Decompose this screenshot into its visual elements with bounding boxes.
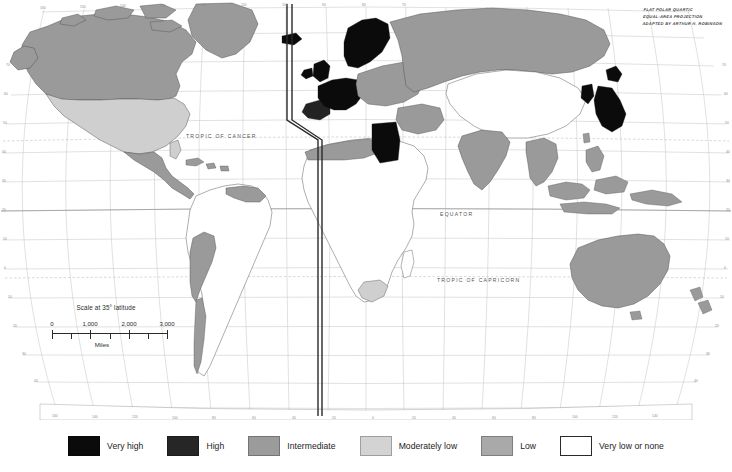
svg-text:80: 80: [362, 3, 366, 7]
legend-item-very-low-or-none: Very low or none: [560, 436, 664, 456]
legend-swatch-very-high: [68, 436, 100, 456]
legend-label-very-high: Very high: [107, 441, 143, 451]
svg-text:30: 30: [22, 352, 26, 356]
svg-text:30: 30: [706, 352, 710, 356]
svg-text:70: 70: [722, 63, 726, 67]
svg-text:60: 60: [724, 92, 728, 96]
svg-text:140: 140: [92, 415, 98, 419]
svg-text:40: 40: [726, 150, 730, 154]
svg-text:90: 90: [322, 3, 326, 7]
credit-line-2: EQUAL-AREA PROJECTION: [643, 14, 723, 21]
legend-label-moderately-low: Moderately low: [399, 441, 458, 451]
legend-item-very-high: Very high: [68, 436, 167, 456]
svg-text:120: 120: [132, 415, 138, 419]
legend-swatch-intermediate: [248, 436, 280, 456]
world-map-svg: 160150 140130 120110 10090 8070 160140 1…: [0, 0, 732, 420]
scale-tick-label-3: 3,000: [159, 320, 174, 327]
label-equator: EQUATOR: [440, 211, 473, 217]
legend-label-intermediate: Intermediate: [287, 441, 335, 451]
svg-text:20: 20: [13, 324, 17, 328]
svg-text:160: 160: [52, 414, 58, 418]
svg-text:140: 140: [652, 414, 658, 418]
svg-text:10: 10: [3, 237, 7, 241]
scale-bar-numbers: 0 1,000 2,000 3,000: [36, 320, 176, 329]
svg-text:30: 30: [2, 179, 6, 183]
scale-tick-label-2: 2,000: [121, 320, 136, 327]
world-map-page: 160150 140130 120110 10090 8070 160140 1…: [0, 0, 732, 472]
projection-credit-block: FLAT POLAR QUARTIC EQUAL-AREA PROJECTION…: [643, 7, 724, 27]
credit-line-1: FLAT POLAR QUARTIC: [644, 7, 724, 14]
legend-label-very-low-or-none: Very low or none: [599, 441, 664, 451]
scale-tick-minor-0: [71, 333, 72, 339]
scale-bar-rule: [36, 330, 176, 339]
svg-text:10: 10: [8, 295, 12, 299]
svg-text:10: 10: [720, 295, 724, 299]
svg-text:140: 140: [120, 4, 126, 8]
scale-tick-label-0: 0: [50, 320, 53, 327]
svg-text:60: 60: [4, 92, 8, 96]
scale-tick-minor-1: [110, 333, 111, 339]
svg-text:30: 30: [726, 179, 730, 183]
legend-item-moderately-low: Moderately low: [360, 436, 482, 456]
credit-line-3: ADAPTED BY ARTHUR H. ROBINSON: [643, 21, 723, 28]
label-tropic-of-cancer: TROPIC OF CANCER: [186, 133, 257, 139]
legend-item-high: High: [167, 436, 248, 456]
map-legend: Very high High Intermediate Moderately l…: [0, 420, 732, 472]
legend-item-low: Low: [481, 436, 560, 456]
scale-tick-label-1: 1,000: [82, 320, 97, 327]
legend-label-high: High: [206, 441, 224, 451]
map-canvas: 160150 140130 120110 10090 8070 160140 1…: [0, 0, 732, 422]
scale-bar-units: Miles: [36, 341, 176, 348]
legend-swatch-moderately-low: [360, 436, 392, 456]
scale-tick-major-3: [167, 330, 168, 339]
svg-text:50: 50: [725, 121, 729, 125]
svg-text:20: 20: [715, 324, 719, 328]
legend-item-intermediate: Intermediate: [248, 436, 359, 456]
region-egypt: [372, 122, 400, 163]
svg-text:120: 120: [612, 415, 618, 419]
svg-text:40: 40: [694, 379, 698, 383]
legend-swatch-low: [481, 436, 513, 456]
svg-text:120: 120: [201, 3, 207, 7]
landmass-taiwan: [583, 133, 590, 143]
svg-text:160: 160: [40, 6, 46, 10]
scale-bar: Scale at 35° latitude 0 1,000 2,000 3,00…: [36, 304, 176, 348]
svg-text:20: 20: [726, 208, 730, 212]
scale-tick-minor-2: [148, 333, 149, 339]
scale-tick-major-1: [90, 330, 91, 339]
scale-tick-major-0: [52, 330, 53, 339]
scale-tick-major-2: [129, 330, 130, 339]
svg-text:150: 150: [80, 5, 86, 9]
svg-text:20: 20: [2, 208, 6, 212]
svg-text:40: 40: [34, 379, 38, 383]
label-tropic-of-capricorn: TROPIC OF CAPRICORN: [437, 277, 520, 283]
svg-text:100: 100: [572, 415, 578, 419]
svg-text:40: 40: [2, 150, 6, 154]
svg-text:50: 50: [3, 121, 7, 125]
legend-label-low: Low: [520, 441, 536, 451]
landmass-tasmania: [630, 311, 642, 320]
svg-text:70: 70: [402, 3, 406, 7]
legend-swatch-high: [167, 436, 199, 456]
svg-text:110: 110: [241, 3, 247, 7]
svg-text:130: 130: [160, 4, 166, 8]
svg-text:100: 100: [282, 3, 288, 7]
svg-text:10: 10: [725, 237, 729, 241]
scale-bar-title: Scale at 35° latitude: [36, 304, 176, 311]
svg-text:0: 0: [4, 266, 6, 270]
svg-text:70: 70: [6, 63, 10, 67]
svg-text:0: 0: [724, 266, 726, 270]
legend-swatch-very-low-or-none: [560, 436, 592, 456]
